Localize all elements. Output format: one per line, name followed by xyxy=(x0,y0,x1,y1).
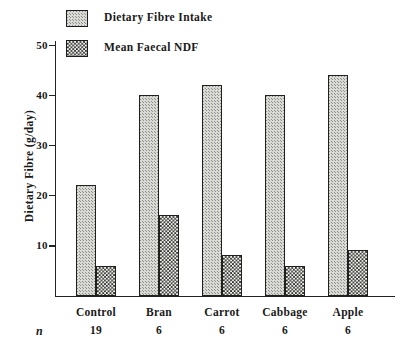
bar-dietary-fibre-intake-apple xyxy=(328,75,348,296)
y-tick-label-20: 20 xyxy=(8,190,48,201)
y-tick-label-50: 50 xyxy=(8,40,48,51)
bar-mean-faecal-ndf-apple xyxy=(348,250,368,295)
sample-size-symbol: n xyxy=(36,325,43,337)
bar-dietary-fibre-intake-carrot xyxy=(202,85,222,296)
y-tick-label-40: 40 xyxy=(8,90,48,101)
bar-mean-faecal-ndf-control xyxy=(96,266,116,296)
sample-size-apple: 6 xyxy=(308,325,388,337)
y-axis-line xyxy=(55,41,56,297)
y-tick-mark-20 xyxy=(49,195,56,196)
bar-dietary-fibre-intake-cabbage xyxy=(265,95,285,296)
bar-dietary-fibre-intake-control xyxy=(76,185,96,295)
x-axis-category-label-apple: Apple xyxy=(308,307,388,319)
x-axis-line xyxy=(55,296,395,297)
plot-area: Dietary Fibre (g/day) 10 20 30 40 50 Con… xyxy=(0,0,401,348)
bar-mean-faecal-ndf-cabbage xyxy=(285,266,305,296)
bar-dietary-fibre-intake-bran xyxy=(139,95,159,296)
y-tick-label-10: 10 xyxy=(8,240,48,251)
y-tick-mark-30 xyxy=(49,145,56,146)
bar-chart-figure: Dietary Fibre Intake Mean Faecal NDF Die… xyxy=(0,0,401,348)
y-tick-mark-50 xyxy=(49,45,56,46)
y-tick-mark-10 xyxy=(49,245,56,246)
y-tick-label-30: 30 xyxy=(8,140,48,151)
bar-mean-faecal-ndf-bran xyxy=(159,215,179,295)
y-tick-mark-40 xyxy=(49,95,56,96)
bar-mean-faecal-ndf-carrot xyxy=(222,255,242,295)
